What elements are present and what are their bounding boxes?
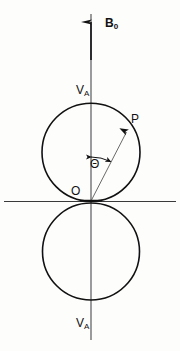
field-label-b0: B0	[105, 17, 118, 29]
point-label-p: P	[131, 113, 139, 125]
velocity-label-bottom: VA	[76, 317, 89, 329]
velocity-label-top: VA	[76, 84, 89, 96]
velocity-bottom-subscript: A	[84, 322, 89, 331]
velocity-top-subscript: A	[84, 89, 89, 98]
field-label-symbol: B	[105, 16, 114, 30]
field-label-subscript: 0	[114, 22, 118, 31]
velocity-bottom-symbol: V	[76, 316, 84, 330]
physics-diagram-figure: B0 VA VA P Θ O	[0, 0, 180, 351]
diagram-canvas	[0, 0, 180, 351]
velocity-top-symbol: V	[76, 83, 84, 97]
angle-label-theta: Θ	[90, 158, 99, 170]
origin-label-o: O	[71, 185, 80, 197]
